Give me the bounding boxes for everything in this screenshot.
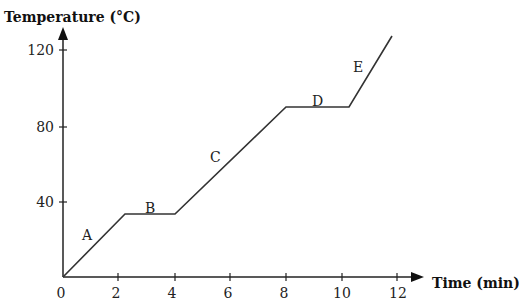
segment-label-c: C <box>210 149 221 165</box>
x-tick-0: 0 <box>57 285 66 301</box>
y-tick-120: 120 <box>27 42 54 58</box>
x-tick-4: 4 <box>168 285 177 301</box>
y-axis-title: Temperature (°C) <box>4 9 141 25</box>
x-axis-arrow-icon <box>411 272 424 282</box>
y-axis-arrow-icon <box>58 27 68 40</box>
heating-curve-chart: Temperature (°C) 40 80 120 0 2 4 6 8 10 … <box>0 0 521 307</box>
y-tick-labels: 40 80 120 <box>27 42 54 210</box>
heating-curve-line <box>63 36 392 277</box>
y-tick-40: 40 <box>36 194 54 210</box>
x-tick-12: 12 <box>389 285 407 301</box>
x-tick-8: 8 <box>280 285 289 301</box>
segment-label-e: E <box>353 59 363 75</box>
y-tick-80: 80 <box>36 119 54 135</box>
x-tick-2: 2 <box>112 285 121 301</box>
x-tick-10: 10 <box>333 285 351 301</box>
segment-label-d: D <box>312 93 323 109</box>
segment-label-b: B <box>145 200 155 216</box>
x-tick-6: 6 <box>224 285 233 301</box>
x-tick-labels: 0 2 4 6 8 10 12 <box>57 285 407 301</box>
x-axis-title: Time (min) <box>432 275 520 291</box>
segment-label-a: A <box>81 227 93 243</box>
